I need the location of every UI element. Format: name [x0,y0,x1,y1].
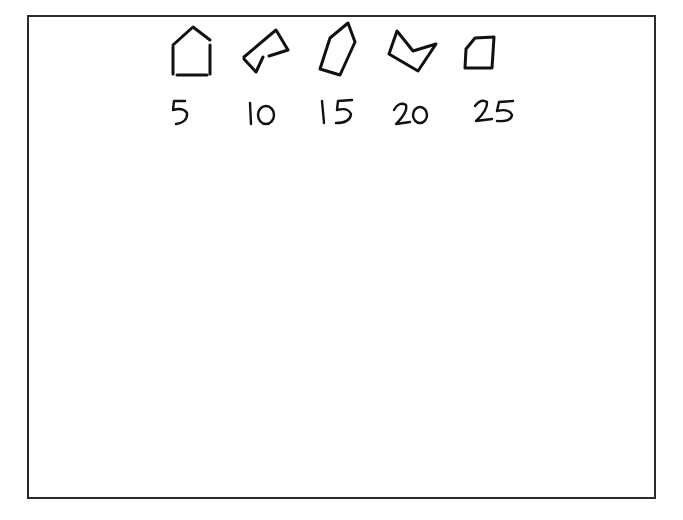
clipped-square-icon [465,37,494,68]
shape-item-4 [389,31,436,71]
tilted-pentagon-icon [320,23,355,75]
bent-hexagon-icon [244,30,288,72]
shape-item-3 [320,23,355,75]
shape-item-1 [173,27,210,75]
figure-canvas [0,0,683,520]
shape-item-2 [244,30,288,72]
label-5 [173,101,187,124]
label-15 [322,100,352,123]
label-20 [394,104,427,124]
shape-item-5 [465,37,494,68]
house-pentagon-icon [173,27,210,75]
label-25 [475,101,513,121]
concave-arrow-icon [389,31,436,71]
label-10 [250,103,274,124]
